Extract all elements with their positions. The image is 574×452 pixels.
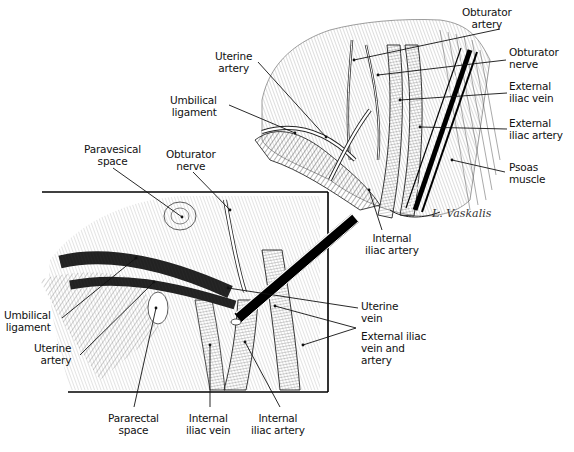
label-paravesical-space: Paravesicalspace — [84, 143, 141, 167]
label-obturator-artery-top: Obturatorartery — [462, 6, 512, 30]
label-internal-iliac-artery-top: Internaliliac artery — [365, 232, 419, 256]
label-uterine-artery-top: Uterineartery — [215, 50, 252, 74]
artist-signature: L. Vaskalis — [432, 207, 491, 220]
label-obturator-nerve-top: Obturatornerve — [509, 46, 559, 70]
label-external-iliac-vein-top: Externaliliac vein — [509, 80, 554, 104]
label-uterine-vein: Uterinevein — [361, 300, 398, 324]
label-internal-iliac-artery-inset: Internaliliac artery — [251, 412, 305, 436]
label-psoas-muscle-top: Psoasmuscle — [509, 161, 545, 185]
label-external-iliac-artery-top: Externaliliac artery — [509, 117, 563, 141]
label-pararectal-space: Pararectalspace — [108, 412, 159, 436]
label-obturator-nerve-inset: Obturatornerve — [166, 148, 216, 172]
anatomy-illustration — [0, 0, 574, 452]
top-view-illustration — [255, 19, 500, 218]
label-external-iliac-vein-and-artery: External iliacvein andartery — [361, 330, 426, 366]
label-umbilical-ligament-top: Umbilicalligament — [170, 94, 217, 118]
label-uterine-artery-inset: Uterineartery — [34, 342, 71, 366]
label-umbilical-ligament-inset: Umbilicalligament — [4, 309, 51, 333]
label-internal-iliac-vein: Internaliliac vein — [186, 412, 231, 436]
